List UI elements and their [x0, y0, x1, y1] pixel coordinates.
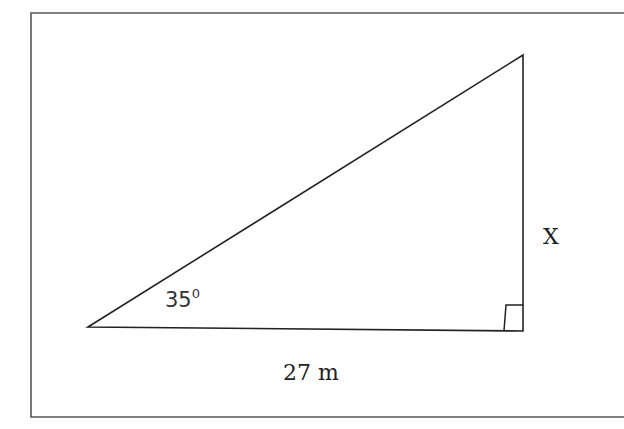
frame-border	[31, 13, 624, 417]
base-length-label: 27 m	[283, 360, 339, 385]
right-triangle	[88, 55, 523, 331]
degree-superscript: 0	[192, 286, 200, 301]
diagram-canvas: 350 27 m X	[0, 0, 624, 429]
angle-label: 350	[165, 286, 200, 312]
right-angle-marker	[504, 305, 523, 331]
height-label: X	[543, 224, 559, 249]
